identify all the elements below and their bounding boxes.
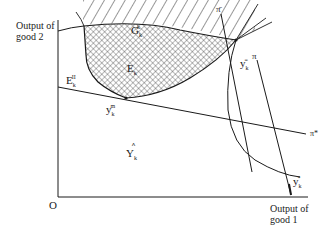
transformation-curve bbox=[228, 40, 300, 177]
region-e bbox=[84, 24, 236, 98]
x-axis-label-line1: Output of bbox=[270, 203, 309, 214]
point-y-m-sub: k bbox=[112, 111, 115, 117]
region-y-hat-sub: k bbox=[134, 155, 137, 161]
upper-frontier-curve bbox=[58, 26, 84, 31]
point-y-m-label: ykm bbox=[106, 101, 115, 120]
region-g-label: Gkk bbox=[131, 22, 140, 41]
point-y-m bbox=[124, 96, 127, 99]
region-e-ii-label: EkII bbox=[66, 72, 76, 91]
pi-star-label: π* bbox=[310, 128, 318, 139]
point-y-bar-sub: k bbox=[246, 65, 249, 71]
region-e-sub: k bbox=[134, 70, 137, 76]
pi-label: π bbox=[252, 51, 257, 62]
region-y-hat-label: ^^ Yk bbox=[126, 142, 137, 164]
x-axis-label: Output of good 1 bbox=[270, 203, 309, 225]
point-y-star-label: yk* bbox=[293, 173, 301, 192]
point-y-m-sup: m bbox=[111, 103, 116, 109]
point-y-star-sup: * bbox=[298, 175, 301, 181]
y-star-tick bbox=[289, 184, 291, 195]
pi-star-line bbox=[58, 87, 306, 134]
region-g-sub: k bbox=[139, 32, 142, 38]
point-y-bar-label: yk= bbox=[240, 55, 248, 74]
y-axis-label-line1: Output of bbox=[16, 20, 55, 31]
point-y-bar bbox=[234, 38, 237, 41]
region-e-base: E bbox=[127, 62, 134, 74]
y-axis-label-line2: good 2 bbox=[16, 31, 55, 42]
origin-label: O bbox=[49, 200, 57, 211]
region-g-sup: k bbox=[137, 24, 140, 30]
region-y-hat-base: Y bbox=[126, 147, 134, 159]
y-axis-label: Output of good 2 bbox=[16, 20, 55, 42]
region-e-ii-sup: II bbox=[72, 74, 76, 80]
region-e-label: Ek bbox=[127, 63, 137, 79]
region-g-left-boundary bbox=[76, 12, 84, 26]
x-axis-label-line2: good 1 bbox=[270, 214, 309, 225]
point-y-star-sub: k bbox=[299, 183, 302, 189]
region-e-ii-sub: k bbox=[73, 82, 76, 88]
point-y-bar-sup: = bbox=[245, 57, 248, 63]
pi-bar-label: π̄ bbox=[216, 4, 221, 15]
